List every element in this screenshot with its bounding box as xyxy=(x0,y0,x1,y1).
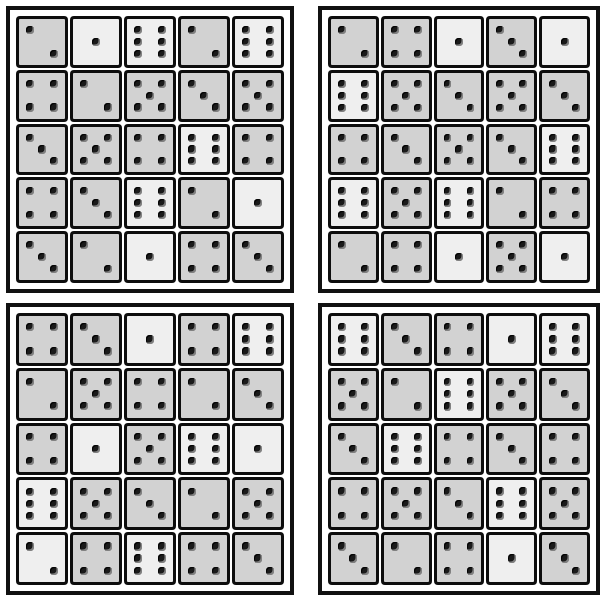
die[interactable] xyxy=(328,477,379,530)
die[interactable] xyxy=(70,532,122,585)
die[interactable] xyxy=(328,124,379,176)
die[interactable] xyxy=(381,124,432,176)
die[interactable] xyxy=(434,231,485,283)
die[interactable] xyxy=(486,368,537,421)
die[interactable] xyxy=(539,124,590,176)
die[interactable] xyxy=(486,532,537,585)
die[interactable] xyxy=(70,368,122,421)
die[interactable] xyxy=(232,124,284,176)
die[interactable] xyxy=(381,231,432,283)
die[interactable] xyxy=(539,70,590,122)
die[interactable] xyxy=(16,177,68,229)
die[interactable] xyxy=(16,16,68,68)
die[interactable] xyxy=(486,16,537,68)
die[interactable] xyxy=(328,70,379,122)
die[interactable] xyxy=(539,231,590,283)
die[interactable] xyxy=(124,477,176,530)
die[interactable] xyxy=(16,368,68,421)
die[interactable] xyxy=(434,124,485,176)
die[interactable] xyxy=(70,177,122,229)
die[interactable] xyxy=(124,231,176,283)
die[interactable] xyxy=(232,177,284,229)
die[interactable] xyxy=(328,368,379,421)
die[interactable] xyxy=(434,532,485,585)
die[interactable] xyxy=(381,477,432,530)
die[interactable] xyxy=(16,477,68,530)
die[interactable] xyxy=(539,177,590,229)
die[interactable] xyxy=(381,532,432,585)
die[interactable] xyxy=(232,368,284,421)
die[interactable] xyxy=(232,313,284,366)
die[interactable] xyxy=(232,477,284,530)
die[interactable] xyxy=(486,177,537,229)
die[interactable] xyxy=(16,124,68,176)
die[interactable] xyxy=(486,124,537,176)
die[interactable] xyxy=(70,423,122,476)
die[interactable] xyxy=(381,16,432,68)
die[interactable] xyxy=(124,124,176,176)
die[interactable] xyxy=(16,532,68,585)
die[interactable] xyxy=(328,423,379,476)
die[interactable] xyxy=(539,368,590,421)
die[interactable] xyxy=(124,177,176,229)
die[interactable] xyxy=(486,231,537,283)
die[interactable] xyxy=(434,423,485,476)
die[interactable] xyxy=(70,70,122,122)
die[interactable] xyxy=(328,313,379,366)
die[interactable] xyxy=(434,313,485,366)
die[interactable] xyxy=(434,177,485,229)
die[interactable] xyxy=(539,423,590,476)
die[interactable] xyxy=(328,16,379,68)
die[interactable] xyxy=(328,231,379,283)
die[interactable] xyxy=(178,477,230,530)
die[interactable] xyxy=(178,313,230,366)
die[interactable] xyxy=(178,532,230,585)
die[interactable] xyxy=(178,368,230,421)
die[interactable] xyxy=(539,16,590,68)
die[interactable] xyxy=(381,423,432,476)
die[interactable] xyxy=(539,313,590,366)
die[interactable] xyxy=(178,70,230,122)
die[interactable] xyxy=(124,70,176,122)
die[interactable] xyxy=(328,532,379,585)
die[interactable] xyxy=(381,368,432,421)
die[interactable] xyxy=(16,423,68,476)
die[interactable] xyxy=(232,423,284,476)
die[interactable] xyxy=(486,70,537,122)
die[interactable] xyxy=(178,423,230,476)
die[interactable] xyxy=(70,477,122,530)
die[interactable] xyxy=(328,177,379,229)
die[interactable] xyxy=(178,124,230,176)
die[interactable] xyxy=(434,70,485,122)
die[interactable] xyxy=(178,231,230,283)
die[interactable] xyxy=(232,532,284,585)
die[interactable] xyxy=(381,313,432,366)
die[interactable] xyxy=(434,368,485,421)
die[interactable] xyxy=(124,368,176,421)
die[interactable] xyxy=(178,16,230,68)
die[interactable] xyxy=(232,231,284,283)
die[interactable] xyxy=(178,177,230,229)
die[interactable] xyxy=(232,16,284,68)
die[interactable] xyxy=(486,477,537,530)
die[interactable] xyxy=(434,477,485,530)
die[interactable] xyxy=(539,532,590,585)
die[interactable] xyxy=(381,177,432,229)
die[interactable] xyxy=(70,16,122,68)
die[interactable] xyxy=(486,313,537,366)
die[interactable] xyxy=(124,532,176,585)
die[interactable] xyxy=(70,231,122,283)
die[interactable] xyxy=(16,313,68,366)
die[interactable] xyxy=(124,423,176,476)
die[interactable] xyxy=(232,70,284,122)
die[interactable] xyxy=(16,70,68,122)
die[interactable] xyxy=(70,124,122,176)
die[interactable] xyxy=(124,16,176,68)
die[interactable] xyxy=(381,70,432,122)
die[interactable] xyxy=(486,423,537,476)
die[interactable] xyxy=(434,16,485,68)
die[interactable] xyxy=(16,231,68,283)
die[interactable] xyxy=(70,313,122,366)
die[interactable] xyxy=(124,313,176,366)
die[interactable] xyxy=(539,477,590,530)
